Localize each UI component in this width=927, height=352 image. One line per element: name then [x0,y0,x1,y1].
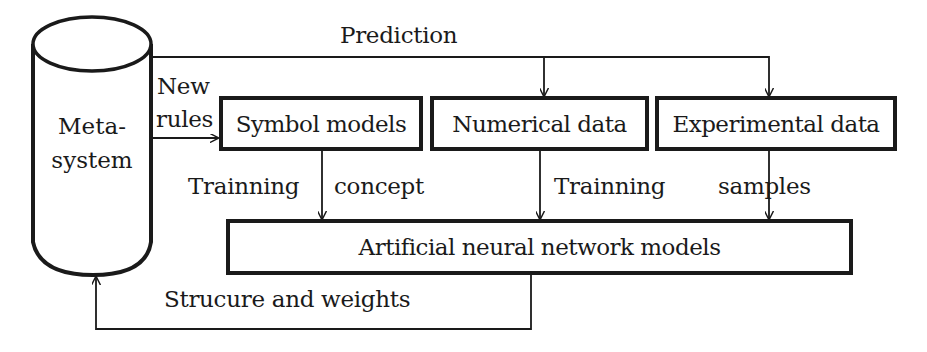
trainning-mid-label: Trainning [554,175,665,198]
concept-label: concept [334,175,424,198]
trainning-left-label: Trainning [188,175,299,198]
samples-label: samples [718,175,811,198]
prediction-connector [151,57,769,96]
numerical-data-box: Numerical data [430,96,649,151]
rules-label: rules [156,108,213,131]
prediction-label: Prediction [340,24,457,47]
ann-models-label: Artificial neural network models [359,234,721,260]
metasystem-label-line1: Meta- [33,109,151,143]
experimental-data-box: Experimental data [655,96,897,151]
metasystem-label-line2: system [33,143,151,177]
symbol-models-box: Symbol models [219,96,423,151]
new-label: New [157,75,210,98]
ann-models-box: Artificial neural network models [226,219,853,275]
structure-weights-label: Strucure and weights [164,288,410,311]
metasystem-label: Meta- system [33,109,151,177]
experimental-data-label: Experimental data [672,111,879,137]
symbol-models-label: Symbol models [236,111,406,137]
numerical-data-label: Numerical data [452,111,626,137]
